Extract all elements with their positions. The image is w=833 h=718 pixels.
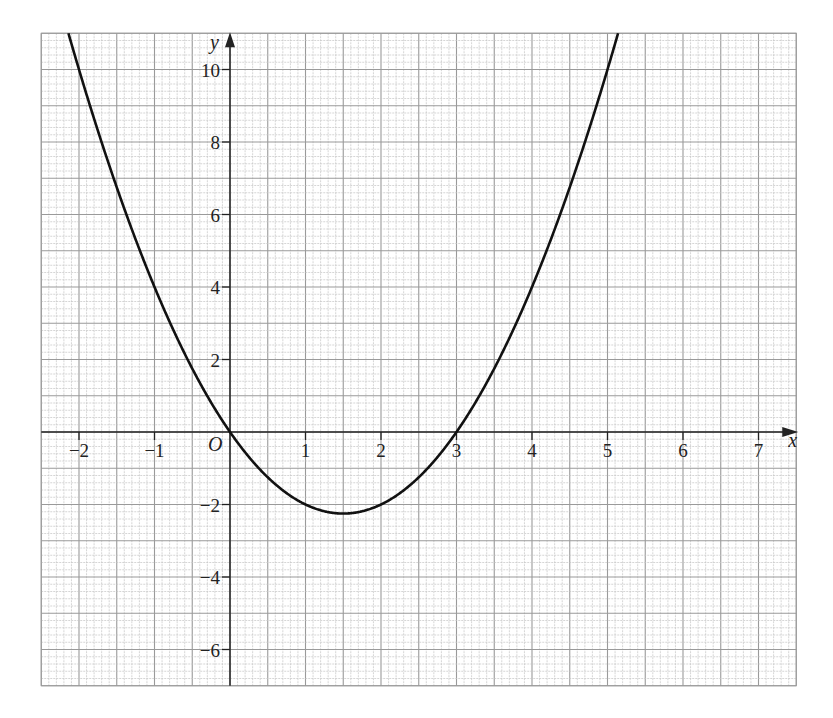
y-tick-label: 10 [201, 60, 220, 81]
y-tick-label: −2 [200, 495, 220, 516]
parabola-chart: −2−11234567−6−4−2246810 x y O [0, 0, 833, 718]
x-tick-label: −2 [69, 440, 89, 461]
x-tick-label: −1 [144, 440, 164, 461]
x-tick-label: 3 [452, 440, 462, 461]
x-tick-label: 6 [678, 440, 688, 461]
graph-paper-grid [41, 33, 796, 686]
x-tick-label: 5 [603, 440, 613, 461]
x-tick-label: 7 [754, 440, 764, 461]
x-axis-label: x [787, 429, 797, 451]
y-tick-label: −6 [200, 640, 220, 661]
y-tick-label: 2 [211, 350, 221, 371]
x-tick-label: 1 [301, 440, 311, 461]
y-tick-label: −4 [200, 567, 221, 588]
y-axis-label: y [208, 31, 219, 54]
y-tick-label: 8 [211, 132, 221, 153]
x-tick-label: 2 [376, 440, 386, 461]
y-tick-label: 4 [211, 277, 221, 298]
x-tick-label: 4 [527, 440, 537, 461]
origin-label: O [208, 433, 222, 455]
y-tick-label: 6 [211, 205, 221, 226]
